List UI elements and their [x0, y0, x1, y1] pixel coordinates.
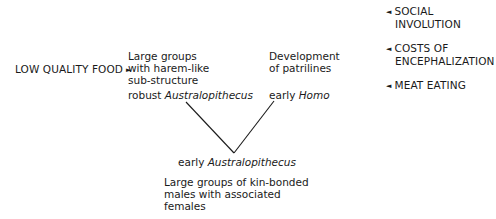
driver-label: LOW QUALITY FOOD — [15, 63, 123, 75]
right-branch-description: Development of patrilines — [269, 50, 340, 74]
description-line: males with associated — [164, 188, 309, 200]
left-branch-description: Large groups with harem-like sub-structu… — [128, 50, 209, 86]
taxon-genus: Australopithecus — [208, 156, 296, 168]
description-line: females — [164, 200, 309, 212]
taxon-prefix: early — [178, 156, 208, 168]
description-line: sub-structure — [128, 74, 209, 86]
taxon-genus: Homo — [299, 89, 330, 101]
taxon-prefix: robust — [128, 89, 165, 101]
description-line: Large groups of kin-bonded — [164, 176, 309, 188]
taxon-prefix: early — [269, 89, 299, 101]
right-branch-line — [234, 101, 274, 153]
description-line: Development — [269, 50, 340, 62]
description-line: with harem-like — [128, 62, 209, 74]
taxon-robust-australopithecus: robust Australopithecus — [128, 89, 253, 101]
driver-costs-of-encephalization: ◄COSTS OF ENCEPHALIZATION — [386, 42, 495, 67]
driver-low-quality-food: LOW QUALITY FOOD► — [15, 63, 131, 76]
taxon-early-australopithecus: early Australopithecus — [178, 156, 296, 168]
driver-label-line: ENCEPHALIZATION — [386, 55, 495, 67]
taxon-genus: Australopithecus — [165, 89, 253, 101]
driver-label-line: INVOLUTION — [386, 18, 461, 30]
description-line: of patrilines — [269, 62, 340, 74]
left-pointer-icon: ◄ — [386, 43, 391, 55]
left-branch-line — [186, 102, 234, 153]
driver-meat-eating: ◄MEAT EATING — [386, 79, 466, 92]
left-pointer-icon: ◄ — [386, 80, 391, 92]
description-line: Large groups — [128, 50, 209, 62]
driver-social-involution: ◄SOCIAL INVOLUTION — [386, 5, 461, 30]
taxon-early-homo: early Homo — [269, 89, 330, 101]
driver-label-line: MEAT EATING — [394, 79, 465, 91]
driver-label-line: SOCIAL — [394, 5, 433, 17]
driver-label-line: COSTS OF — [394, 42, 448, 54]
left-pointer-icon: ◄ — [386, 6, 391, 18]
root-description: Large groups of kin-bonded males with as… — [164, 176, 309, 212]
